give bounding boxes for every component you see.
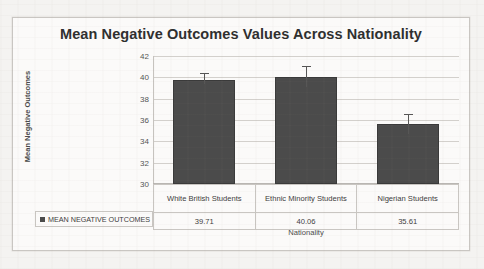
table-cell-category-0: White British Students (154, 185, 256, 213)
y-tick-label-36: 36 (140, 116, 149, 125)
legend-label: MEAN NEGATIVE OUTCOMES (48, 215, 150, 224)
table-row-categories: White British Students Ethnic Minority S… (154, 185, 459, 213)
y-tick-label-38: 38 (140, 94, 149, 103)
table-cell-category-1: Ethnic Minority Students (255, 185, 357, 213)
legend-swatch-icon (40, 217, 45, 222)
table-cell-value-0: 39.71 (154, 213, 256, 230)
error-bar-ethnic-minority-students (306, 66, 307, 87)
y-axis-line (153, 56, 154, 184)
bar-white-british-students[interactable] (173, 80, 235, 184)
error-bar-white-british-students (204, 73, 205, 85)
error-bar-cap-upper-white-british-students (200, 73, 209, 74)
y-tick-label-42: 42 (140, 52, 149, 61)
y-axis-title: Mean Negative Outcomes (21, 56, 35, 176)
error-bar-cap-upper-nigerian-students (404, 114, 413, 115)
y-tick-label-32: 32 (140, 158, 149, 167)
error-bar-cap-upper-ethnic-minority-students (302, 66, 311, 67)
y-tick-label-34: 34 (140, 137, 149, 146)
y-axis-title-label: Mean Negative Outcomes (24, 70, 33, 161)
table-cell-value-2: 35.61 (357, 213, 459, 230)
chart-data-table: White British Students Ethnic Minority S… (153, 184, 459, 230)
gridline-42: 42 (153, 56, 459, 57)
chart-container: Mean Negative Outcomes Values Across Nat… (12, 17, 470, 251)
bar-ethnic-minority-students[interactable] (275, 77, 337, 184)
table-cell-category-2: Nigerian Students (357, 185, 459, 213)
chart-title: Mean Negative Outcomes Values Across Nat… (13, 26, 469, 42)
table-row-values: 39.71 40.06 35.61 (154, 213, 459, 230)
error-bar-nigerian-students (408, 114, 409, 134)
plot-area: 42 40 38 36 34 32 30 (153, 56, 459, 184)
y-tick-label-40: 40 (140, 73, 149, 82)
legend-series-mean-negative-outcomes: MEAN NEGATIVE OUTCOMES (35, 211, 153, 227)
y-tick-label-30: 30 (140, 180, 149, 189)
x-axis-title: Nationality (153, 228, 459, 237)
table-cell-value-1: 40.06 (255, 213, 357, 230)
